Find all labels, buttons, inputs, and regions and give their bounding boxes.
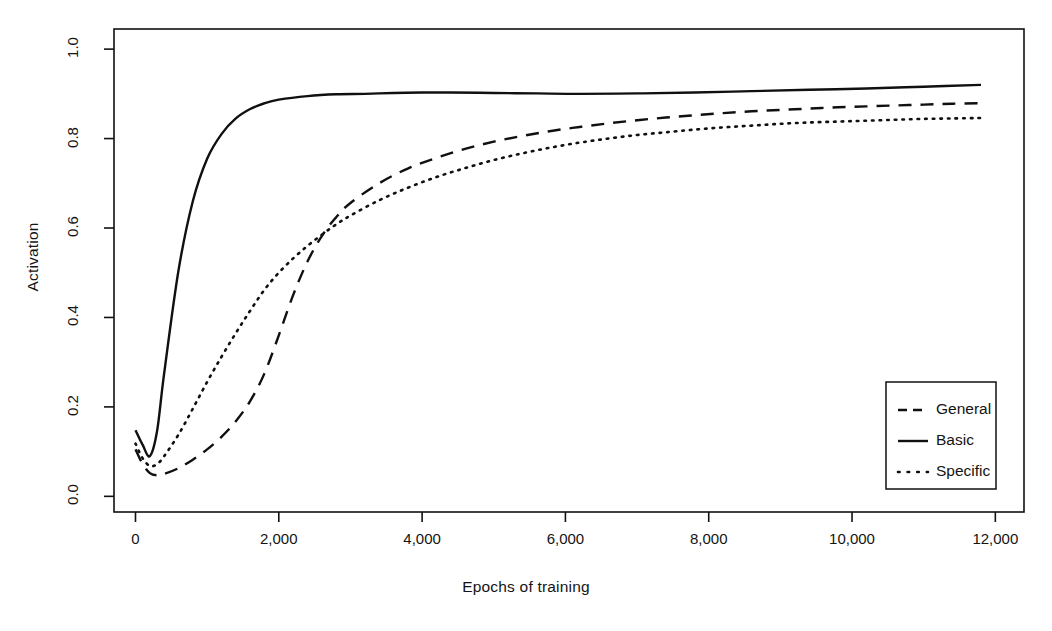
legend-label-specific: Specific	[936, 462, 990, 480]
y-tick-label: 0.2	[64, 375, 81, 435]
y-axis-ticks	[104, 49, 114, 496]
y-tick-label: 0.0	[64, 465, 81, 525]
data-series-group	[136, 85, 982, 475]
x-tick-label: 12,000	[945, 530, 1045, 547]
x-tick-label: 6,000	[515, 530, 615, 547]
y-tick-label: 0.8	[64, 107, 81, 167]
series-line-general	[136, 103, 982, 475]
y-axis-title: Activation	[24, 197, 42, 317]
x-axis-title: Epochs of training	[0, 578, 1052, 596]
x-tick-label: 2,000	[229, 530, 329, 547]
chart-figure: Activation Epochs of training 02,0004,00…	[0, 0, 1052, 631]
y-tick-label: 0.4	[64, 286, 81, 346]
series-line-specific	[136, 118, 982, 466]
x-tick-label: 10,000	[802, 530, 902, 547]
x-tick-label: 8,000	[659, 530, 759, 547]
y-tick-label: 1.0	[64, 18, 81, 78]
series-line-basic	[136, 85, 982, 457]
x-tick-label: 0	[85, 530, 185, 547]
legend-label-basic: Basic	[936, 431, 974, 449]
x-axis-ticks	[135, 512, 995, 522]
x-tick-label: 4,000	[372, 530, 472, 547]
y-tick-label: 0.6	[64, 197, 81, 257]
legend-label-general: General	[936, 400, 991, 418]
